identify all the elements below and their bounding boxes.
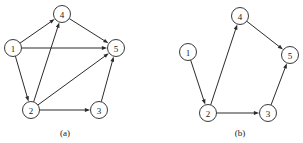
panel-a-node-1[interactable]: 1 bbox=[5, 40, 22, 57]
arrowhead-1-to-2 bbox=[25, 96, 29, 102]
panel-a-group: 12345(a) bbox=[5, 6, 125, 139]
panel-b-group: 12345(b) bbox=[180, 8, 299, 139]
edge-1-to-2 bbox=[15, 56, 27, 97]
panel-a-node-5[interactable]: 5 bbox=[108, 40, 125, 57]
arrowhead-1-to-2 bbox=[202, 99, 206, 105]
edge-2-to-5 bbox=[38, 56, 106, 105]
panel-a-node-4[interactable]: 4 bbox=[54, 6, 71, 23]
node-label-3: 3 bbox=[266, 109, 271, 119]
edge-1-to-4 bbox=[20, 21, 51, 43]
edge-3-to-5 bbox=[101, 60, 112, 101]
edge-2-to-4 bbox=[34, 26, 58, 102]
panel-b-node-4[interactable]: 4 bbox=[232, 8, 249, 25]
node-label-4: 4 bbox=[60, 10, 65, 20]
arrowhead-2-to-4 bbox=[234, 24, 238, 30]
node-label-1: 1 bbox=[186, 48, 191, 58]
arrowhead-1-to-4 bbox=[49, 19, 54, 24]
edge-3-to-5 bbox=[271, 67, 285, 105]
node-label-5: 5 bbox=[114, 44, 119, 54]
graph-figure: 12345(a)12345(b) bbox=[0, 0, 303, 143]
node-label-3: 3 bbox=[97, 106, 102, 116]
node-label-2: 2 bbox=[206, 109, 211, 119]
arrowhead-1-to-5 bbox=[102, 46, 107, 50]
panel-b-nodes: 12345 bbox=[180, 8, 299, 122]
node-label-4: 4 bbox=[238, 12, 243, 22]
arrowhead-2-to-3 bbox=[254, 111, 259, 115]
graph-svg-canvas: 12345(a)12345(b) bbox=[0, 0, 303, 143]
panel-b-node-3[interactable]: 3 bbox=[260, 105, 277, 122]
arrowhead-3-to-5 bbox=[110, 57, 114, 63]
panel-b-node-5[interactable]: 5 bbox=[282, 47, 299, 64]
arrowhead-2-to-3 bbox=[85, 108, 90, 112]
edge-4-to-5 bbox=[69, 19, 105, 42]
panel-a-caption: (a) bbox=[60, 128, 70, 138]
node-label-5: 5 bbox=[288, 51, 293, 61]
edge-2-to-4 bbox=[211, 28, 236, 105]
panel-b-caption: (b) bbox=[235, 128, 246, 138]
node-label-1: 1 bbox=[11, 44, 16, 54]
panel-a-node-2[interactable]: 2 bbox=[23, 102, 40, 119]
node-label-2: 2 bbox=[29, 106, 34, 116]
panel-a-node-3[interactable]: 3 bbox=[91, 102, 108, 119]
panel-b-edges bbox=[191, 21, 287, 115]
edge-4-to-5 bbox=[247, 21, 280, 47]
arrowhead-3-to-5 bbox=[283, 63, 287, 69]
edge-1-to-2 bbox=[191, 60, 204, 101]
panel-a-nodes: 12345 bbox=[5, 6, 125, 119]
arrowhead-4-to-5 bbox=[103, 39, 108, 43]
panel-a-edges bbox=[15, 19, 114, 112]
arrowhead-2-to-4 bbox=[56, 22, 60, 28]
panel-b-node-2[interactable]: 2 bbox=[200, 105, 217, 122]
panel-b-node-1[interactable]: 1 bbox=[180, 44, 197, 61]
